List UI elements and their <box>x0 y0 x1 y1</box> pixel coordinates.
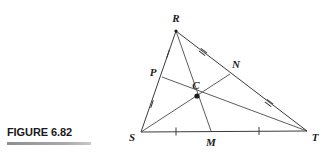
label-C: C <box>192 79 200 91</box>
vertex-labels: R S T M N P C <box>129 12 320 148</box>
side-RS <box>141 31 176 132</box>
median-SN <box>141 74 230 132</box>
figure-container: FIGURE 6.82 <box>0 0 329 154</box>
label-T: T <box>312 131 320 143</box>
label-N: N <box>231 58 241 70</box>
point-R-dot <box>174 29 177 32</box>
triangle-medians <box>141 31 307 132</box>
congruence-tick-marks <box>151 48 273 135</box>
point-C-dot <box>194 93 199 98</box>
label-P: P <box>150 66 157 78</box>
tick-RP <box>167 50 170 58</box>
label-S: S <box>129 131 135 143</box>
triangle-diagram: R S T M N P C <box>0 0 329 154</box>
label-M: M <box>205 136 217 148</box>
side-ST <box>141 131 307 132</box>
label-R: R <box>171 12 179 24</box>
triangle-sides <box>141 31 307 132</box>
